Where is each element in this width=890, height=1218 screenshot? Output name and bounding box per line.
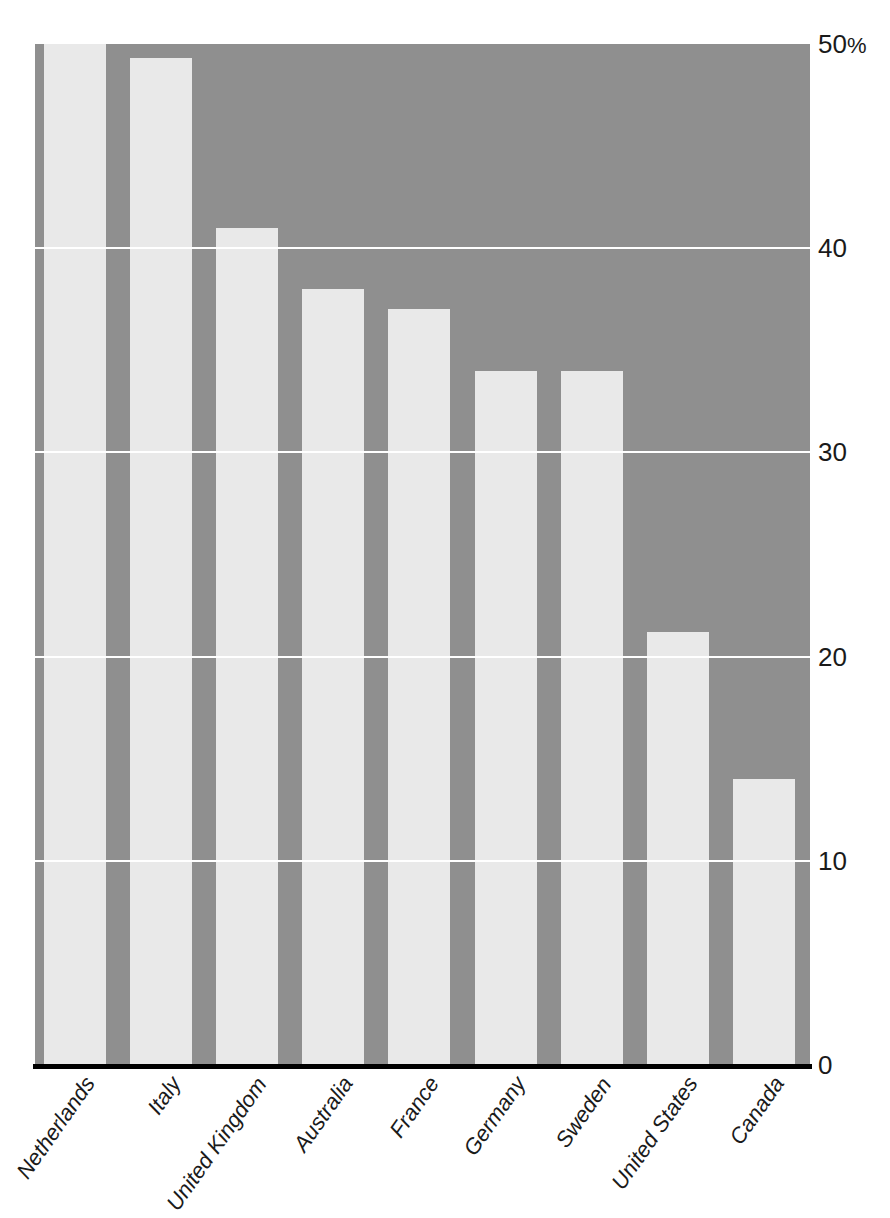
gridline xyxy=(35,247,810,249)
x-tick-label: Sweden xyxy=(552,1073,616,1151)
y-tick-label: 30 xyxy=(818,439,847,465)
x-axis-tick-labels: NetherlandsItalyUnited KingdomAustraliaF… xyxy=(0,1069,890,1218)
y-tick-value: 20 xyxy=(818,642,847,672)
x-axis-baseline xyxy=(33,1064,812,1069)
gridline xyxy=(35,860,810,862)
bar xyxy=(388,309,450,1065)
x-tick-label: Australia xyxy=(290,1073,357,1156)
y-axis-unit: % xyxy=(847,33,867,58)
bar xyxy=(561,371,623,1065)
y-tick-value: 10 xyxy=(818,846,847,876)
bar xyxy=(130,58,192,1065)
y-tick-label: 10 xyxy=(818,848,847,874)
y-tick-value: 50 xyxy=(818,29,847,59)
gridline xyxy=(35,451,810,453)
bar xyxy=(44,44,106,1065)
y-axis-tick-labels: 50%403020100 xyxy=(818,0,890,1218)
x-tick-label: United States xyxy=(608,1073,702,1194)
x-tick-label: France xyxy=(386,1073,443,1142)
bar xyxy=(216,228,278,1065)
bar-chart-figure: 50%403020100 NetherlandsItalyUnited King… xyxy=(0,0,890,1218)
x-tick-label: Canada xyxy=(726,1073,788,1149)
bar xyxy=(302,289,364,1065)
bar xyxy=(475,371,537,1065)
y-tick-value: 30 xyxy=(818,437,847,467)
y-tick-value: 40 xyxy=(818,233,847,263)
y-tick-label: 40 xyxy=(818,235,847,261)
plot-area xyxy=(35,44,810,1065)
bar xyxy=(647,632,709,1065)
gridline xyxy=(35,656,810,658)
y-tick-label: 50% xyxy=(818,31,866,57)
x-tick-label: Netherlands xyxy=(13,1073,99,1183)
y-tick-label: 20 xyxy=(818,644,847,670)
bar xyxy=(733,779,795,1065)
x-tick-label: Italy xyxy=(144,1073,185,1119)
x-tick-label: Germany xyxy=(460,1073,530,1160)
